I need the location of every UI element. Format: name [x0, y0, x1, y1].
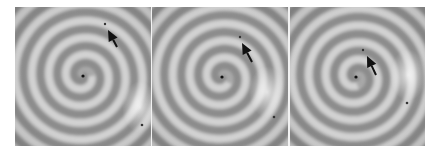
spiral-panel-1	[15, 7, 152, 146]
spiral-core-dot	[81, 74, 84, 77]
tracked-point-dot	[362, 49, 364, 51]
reference-dot	[406, 102, 409, 105]
spiral-panel-2	[152, 7, 288, 146]
spiral-wave-figure	[0, 0, 438, 156]
tracked-point-dot	[239, 36, 241, 38]
reference-dot	[141, 124, 144, 127]
reference-dot	[273, 116, 276, 119]
tracked-point-dot	[104, 23, 106, 25]
spiral-core-dot	[220, 75, 223, 78]
spiral-panel-3	[290, 7, 425, 146]
spiral-core-dot	[354, 75, 357, 78]
